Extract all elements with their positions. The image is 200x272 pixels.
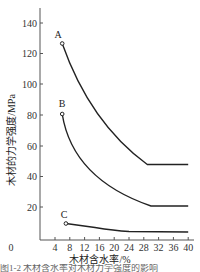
y-tick-labels: 140 120 100 80 60 40 20 — [22, 18, 37, 213]
y-tick-label: 40 — [27, 171, 37, 182]
x-tick-label: 8 — [67, 242, 72, 253]
x-tick-label: 16 — [94, 242, 104, 253]
x-tick-label: 20 — [109, 242, 119, 253]
curve-c — [66, 224, 188, 233]
x-tick-labels: 0 4 8 12 16 20 24 28 32 36 40 — [9, 242, 194, 253]
curve-c-start-marker — [64, 222, 68, 226]
y-tick-label: 140 — [22, 18, 37, 29]
y-tick-label: 80 — [27, 110, 37, 121]
x-tick-label: 36 — [168, 242, 178, 253]
curve-a-start-marker — [60, 42, 64, 46]
x-tick-label: 40 — [183, 242, 193, 253]
figure-caption: 图1-2 木材含水率对木材力学强度的影响 — [0, 264, 200, 272]
y-tick-label: 100 — [22, 79, 37, 90]
origin-label: 0 — [9, 242, 14, 253]
x-tick-label: 32 — [154, 242, 164, 253]
y-tick-label: 120 — [22, 48, 37, 59]
x-tick-label: 24 — [124, 242, 134, 253]
x-tick-label: 12 — [80, 242, 90, 253]
curve-a — [62, 44, 188, 165]
curve-b — [62, 114, 188, 206]
x-tick-label: 28 — [139, 242, 149, 253]
y-tick-label: 60 — [27, 141, 37, 152]
y-tick-label: 20 — [27, 202, 37, 213]
x-tick-label: 4 — [53, 242, 58, 253]
y-axis-title: 木材的力学强度/MPa — [5, 94, 17, 186]
series-label-c: C — [61, 209, 68, 220]
curve-b-start-marker — [60, 112, 64, 116]
series-label-a: A — [54, 29, 62, 40]
chart-canvas: 140 120 100 80 60 40 20 0 4 8 12 16 20 2… — [0, 0, 200, 272]
series-label-b: B — [59, 98, 66, 109]
